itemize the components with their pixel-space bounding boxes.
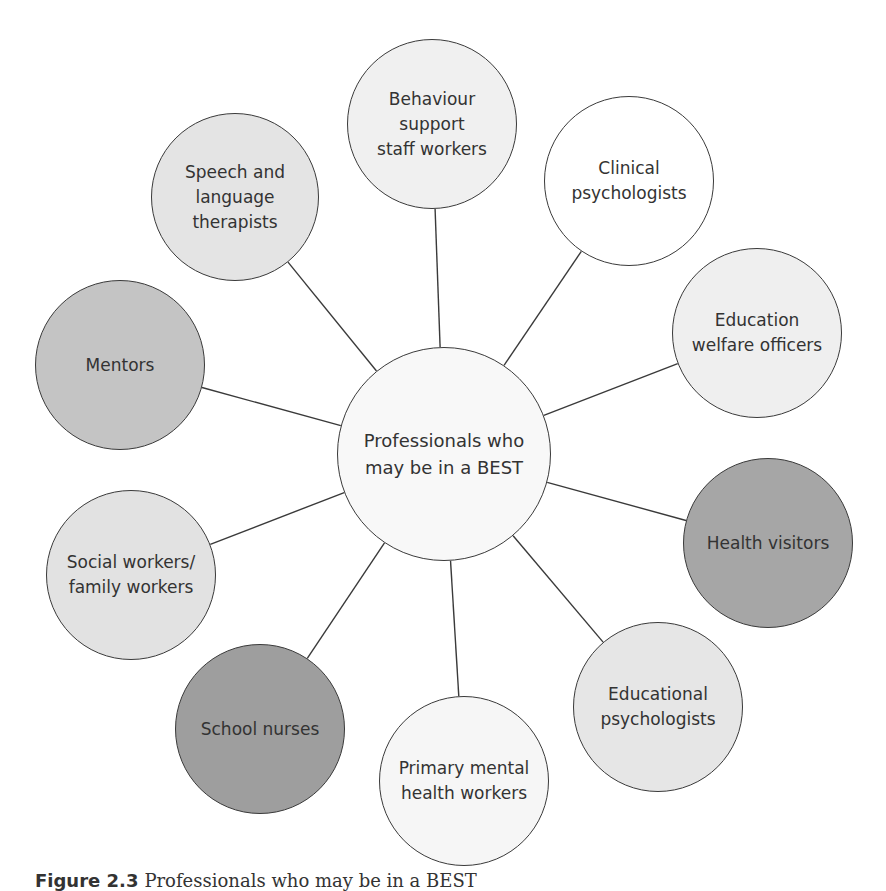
connector-line-primary-mental (451, 561, 459, 696)
node-label: Social workers/ family workers (57, 550, 205, 600)
connector-line-mentors (202, 388, 341, 426)
figure-caption-text: Professionals who may be in a BEST (144, 870, 476, 891)
node-educational-psych: Educational psychologists (573, 622, 743, 792)
node-label: School nurses (191, 717, 330, 742)
connector-line-clinical (504, 251, 581, 365)
node-label: Primary mental health workers (389, 756, 540, 806)
node-social-workers: Social workers/ family workers (46, 490, 216, 660)
node-clinical: Clinical psychologists (544, 96, 714, 266)
node-behaviour: Behaviour support staff workers (347, 39, 517, 209)
connector-line-health-visitors (547, 482, 686, 520)
connector-line-educational-psych (513, 536, 603, 642)
connector-line-behaviour (435, 209, 440, 347)
node-label: Health visitors (697, 531, 840, 556)
connector-line-school-nurses (307, 543, 384, 658)
connector-line-speech-language (288, 262, 376, 371)
node-label: Speech and language therapists (175, 160, 295, 235)
node-speech-language: Speech and language therapists (151, 113, 319, 281)
node-label: Behaviour support staff workers (367, 87, 497, 162)
center-node: Professionals who may be in a BEST (337, 347, 551, 561)
node-label: Education welfare officers (682, 308, 832, 358)
node-label: Clinical psychologists (561, 156, 696, 206)
node-label: Educational psychologists (590, 682, 725, 732)
connector-line-social-workers (210, 493, 344, 545)
figure-caption: Figure 2.3Professionals who may be in a … (35, 870, 477, 891)
node-education-welfare: Education welfare officers (672, 248, 842, 418)
node-primary-mental: Primary mental health workers (379, 696, 549, 866)
node-mentors: Mentors (35, 280, 205, 450)
figure-number: Figure 2.3 (35, 870, 138, 891)
connector-line-education-welfare (544, 364, 678, 416)
node-school-nurses: School nurses (175, 644, 345, 814)
node-label: Professionals who may be in a BEST (354, 427, 534, 481)
node-label: Mentors (76, 353, 165, 378)
node-health-visitors: Health visitors (683, 458, 853, 628)
